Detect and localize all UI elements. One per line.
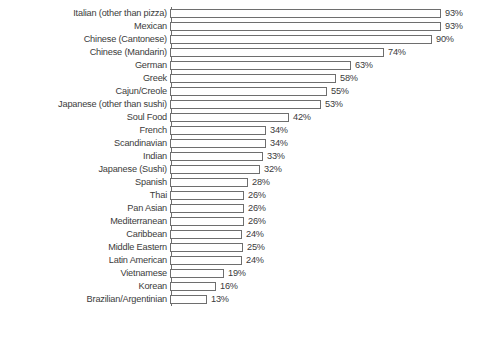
bar-row: Indian33% bbox=[0, 150, 491, 163]
bar-value-label: 34% bbox=[270, 125, 288, 136]
bar-track: 58% bbox=[170, 72, 491, 85]
bar-rect bbox=[170, 35, 432, 44]
bar-rect bbox=[170, 256, 242, 265]
bar-row: German63% bbox=[0, 59, 491, 72]
bar-rect bbox=[170, 295, 207, 304]
bar-category-label: Italian (other than pizza) bbox=[0, 8, 170, 19]
bar-value-label: 25% bbox=[247, 242, 265, 253]
bar-rect bbox=[170, 269, 224, 278]
bar-row: Japanese (Sushi)32% bbox=[0, 163, 491, 176]
bar-category-label: Chinese (Cantonese) bbox=[0, 34, 170, 45]
bar-rect bbox=[170, 282, 216, 291]
bar-track: 32% bbox=[170, 163, 491, 176]
bar-rect bbox=[170, 22, 441, 31]
bar-category-label: Korean bbox=[0, 281, 170, 292]
bar-category-label: Middle Eastern bbox=[0, 242, 170, 253]
bar-rect bbox=[170, 217, 244, 226]
bar-category-label: Mediterranean bbox=[0, 216, 170, 227]
bar-row: Caribbean24% bbox=[0, 228, 491, 241]
bar-category-label: Japanese (Sushi) bbox=[0, 164, 170, 175]
bar-row: French34% bbox=[0, 124, 491, 137]
bar-track: 93% bbox=[170, 20, 491, 33]
bar-category-label: Vietnamese bbox=[0, 268, 170, 279]
bar-track: 93% bbox=[170, 7, 491, 20]
bar-track: 19% bbox=[170, 267, 491, 280]
bar-row: Mexican93% bbox=[0, 20, 491, 33]
bar-category-label: Thai bbox=[0, 190, 170, 201]
bar-category-label: Mexican bbox=[0, 21, 170, 32]
bar-rect bbox=[170, 204, 244, 213]
bar-row: Chinese (Mandarin)74% bbox=[0, 46, 491, 59]
bar-track: 34% bbox=[170, 137, 491, 150]
bar-rect bbox=[170, 152, 263, 161]
bar-row: Mediterranean26% bbox=[0, 215, 491, 228]
bar-category-label: Greek bbox=[0, 73, 170, 84]
bar-rect bbox=[170, 191, 244, 200]
bar-rect bbox=[170, 243, 243, 252]
bar-value-label: 19% bbox=[228, 268, 246, 279]
bar-value-label: 90% bbox=[436, 34, 454, 45]
bar-row: Scandinavian34% bbox=[0, 137, 491, 150]
bar-track: 26% bbox=[170, 202, 491, 215]
bar-value-label: 53% bbox=[325, 99, 343, 110]
bar-row: Soul Food42% bbox=[0, 111, 491, 124]
bar-value-label: 93% bbox=[445, 8, 463, 19]
bar-track: 42% bbox=[170, 111, 491, 124]
bar-category-label: Chinese (Mandarin) bbox=[0, 47, 170, 58]
bar-track: 25% bbox=[170, 241, 491, 254]
bar-category-label: Japanese (other than sushi) bbox=[0, 99, 170, 110]
bar-track: 33% bbox=[170, 150, 491, 163]
bar-row: Thai26% bbox=[0, 189, 491, 202]
bar-value-label: 28% bbox=[252, 177, 270, 188]
bar-rect bbox=[170, 61, 351, 70]
bar-rect bbox=[170, 100, 321, 109]
bar-value-label: 26% bbox=[248, 203, 266, 214]
bar-track: 24% bbox=[170, 228, 491, 241]
bar-rect bbox=[170, 113, 289, 122]
bar-rows-container: Italian (other than pizza)93%Mexican93%C… bbox=[0, 7, 491, 306]
bar-row: Greek58% bbox=[0, 72, 491, 85]
bar-value-label: 16% bbox=[220, 281, 238, 292]
bar-category-label: Cajun/Creole bbox=[0, 86, 170, 97]
bar-rect bbox=[170, 178, 248, 187]
bar-category-label: Brazilian/Argentinian bbox=[0, 294, 170, 305]
bar-value-label: 33% bbox=[267, 151, 285, 162]
bar-category-label: German bbox=[0, 60, 170, 71]
bar-track: 90% bbox=[170, 33, 491, 46]
bar-rect bbox=[170, 165, 260, 174]
bar-rect bbox=[170, 230, 242, 239]
bar-rect bbox=[170, 126, 266, 135]
bar-category-label: Soul Food bbox=[0, 112, 170, 123]
bar-value-label: 13% bbox=[211, 294, 229, 305]
bar-value-label: 74% bbox=[388, 47, 406, 58]
bar-row: Brazilian/Argentinian13% bbox=[0, 293, 491, 306]
bar-track: 74% bbox=[170, 46, 491, 59]
bar-track: 16% bbox=[170, 280, 491, 293]
bar-track: 63% bbox=[170, 59, 491, 72]
bar-row: Korean16% bbox=[0, 280, 491, 293]
bar-category-label: French bbox=[0, 125, 170, 136]
bar-rect bbox=[170, 48, 384, 57]
bar-category-label: Latin American bbox=[0, 255, 170, 266]
bar-value-label: 32% bbox=[264, 164, 282, 175]
bar-value-label: 34% bbox=[270, 138, 288, 149]
bar-category-label: Caribbean bbox=[0, 229, 170, 240]
bar-row: Pan Asian26% bbox=[0, 202, 491, 215]
bar-track: 55% bbox=[170, 85, 491, 98]
bar-rect bbox=[170, 74, 336, 83]
bar-track: 24% bbox=[170, 254, 491, 267]
bar-value-label: 58% bbox=[340, 73, 358, 84]
bar-track: 53% bbox=[170, 98, 491, 111]
bar-row: Italian (other than pizza)93% bbox=[0, 7, 491, 20]
bar-row: Chinese (Cantonese)90% bbox=[0, 33, 491, 46]
bar-row: Middle Eastern25% bbox=[0, 241, 491, 254]
bar-rect bbox=[170, 87, 327, 96]
bar-value-label: 63% bbox=[355, 60, 373, 71]
bar-rect bbox=[170, 9, 441, 18]
bar-category-label: Spanish bbox=[0, 177, 170, 188]
bar-row: Latin American24% bbox=[0, 254, 491, 267]
bar-category-label: Indian bbox=[0, 151, 170, 162]
bar-rect bbox=[170, 139, 266, 148]
bar-track: 26% bbox=[170, 189, 491, 202]
bar-value-label: 24% bbox=[246, 229, 264, 240]
